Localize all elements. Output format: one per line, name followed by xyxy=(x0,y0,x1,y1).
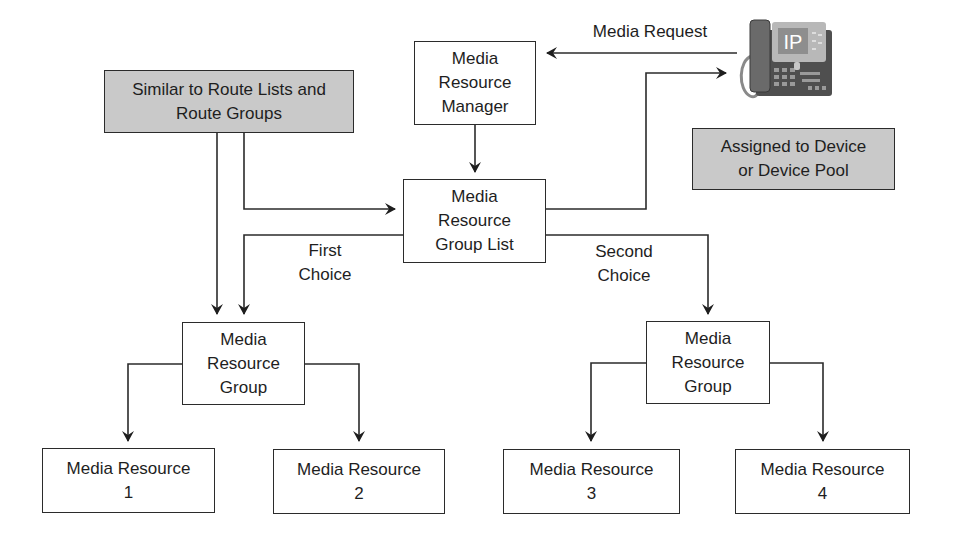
mr2-label: Media Resource 2 xyxy=(297,458,421,506)
phone-screen-text: IP xyxy=(784,31,803,53)
media-request-label: Media Request xyxy=(580,20,720,44)
similar-note-box: Similar to Route Lists and Route Groups xyxy=(104,70,354,133)
media-resource-group-right-box: Media Resource Group xyxy=(646,321,770,404)
media-resource-3-box: Media Resource 3 xyxy=(503,449,680,514)
mr3-label: Media Resource 3 xyxy=(530,458,654,506)
mrg-left-to-mr1-arrow xyxy=(128,364,182,441)
media-resource-group-list-box: Media Resource Group List xyxy=(403,179,546,263)
mrg-left-label: Media Resource Group xyxy=(207,328,280,400)
first-choice-label: First Choice xyxy=(285,239,365,287)
mrg-right-to-mr3-arrow xyxy=(591,363,646,441)
mrg-left-to-mr2-arrow xyxy=(305,364,359,441)
ip-phone-icon: IP xyxy=(736,16,836,100)
mrg-right-to-mr4-arrow xyxy=(770,363,823,441)
mr4-label: Media Resource 4 xyxy=(761,458,885,506)
mr1-label: Media Resource 1 xyxy=(67,457,191,505)
assigned-note-label: Assigned to Device or Device Pool xyxy=(721,135,867,183)
mrgl-label: Media Resource Group List xyxy=(435,185,513,257)
assigned-note-box: Assigned to Device or Device Pool xyxy=(692,128,895,190)
similar-note-label: Similar to Route Lists and Route Groups xyxy=(132,78,326,126)
mrg-right-label: Media Resource Group xyxy=(672,327,745,399)
media-resource-2-box: Media Resource 2 xyxy=(273,449,445,514)
media-resource-4-box: Media Resource 4 xyxy=(735,449,910,514)
second-choice-label: Second Choice xyxy=(579,240,669,288)
media-resource-group-left-box: Media Resource Group xyxy=(182,322,305,405)
note-to-mrgl-arrow xyxy=(244,133,395,209)
mrm-label: Media Resource Manager xyxy=(439,47,512,119)
media-resource-1-box: Media Resource 1 xyxy=(42,448,215,513)
media-resource-manager-box: Media Resource Manager xyxy=(414,41,536,125)
